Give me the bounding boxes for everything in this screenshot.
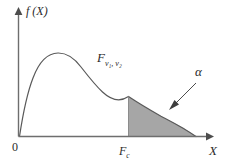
x-axis-label: X xyxy=(209,143,217,159)
curve-label: Fν₁, ν₂ xyxy=(97,50,122,68)
alpha-label: α xyxy=(195,64,202,80)
curve-label-base: F xyxy=(97,50,105,65)
critical-value-label-subscript: c xyxy=(126,151,129,160)
origin-label: 0 xyxy=(12,140,18,155)
y-axis-arrowhead xyxy=(15,7,23,15)
f-distribution-plot xyxy=(0,0,231,167)
figure-container: f (X) X 0 Fν₁, ν₂ Fc α xyxy=(0,0,231,167)
y-axis-label: f (X) xyxy=(26,4,48,19)
curve-label-subscript: ν₁, ν₂ xyxy=(105,59,122,68)
critical-value-label: Fc xyxy=(119,144,130,160)
x-axis-arrowhead xyxy=(206,133,214,141)
